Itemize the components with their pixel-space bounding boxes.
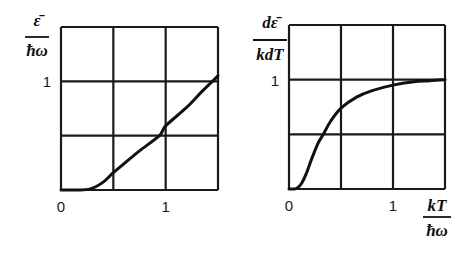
x-tick-label: 1 [161, 198, 169, 215]
data-curve [61, 76, 218, 190]
x-tick-label: 0 [285, 197, 293, 214]
y-label-numerator: ε̄ [34, 11, 46, 30]
y-axis-label: dε̄kdT [253, 13, 287, 64]
y-tick-label: 1 [271, 72, 279, 89]
figure-canvas: 011ε̄ħω 011dε̄kdTkTħω [0, 0, 463, 256]
x-label-numerator: kT [428, 196, 448, 215]
y-label-numerator: dε̄ [262, 13, 282, 32]
y-label-denominator: ħω [26, 41, 48, 60]
mean-energy-plot: 011ε̄ħω [25, 11, 218, 215]
x-axis-label: kTħω [423, 196, 451, 240]
y-tick-label: 1 [43, 73, 51, 90]
x-label-denominator: ħω [426, 221, 448, 240]
x-tick-label: 1 [389, 197, 397, 214]
grid [289, 25, 445, 189]
heat-capacity-plot: 011dε̄kdTkTħω [253, 13, 451, 240]
y-label-denominator: kdT [256, 45, 284, 64]
grid [61, 27, 218, 190]
x-tick-label: 0 [57, 198, 65, 215]
y-axis-label: ε̄ħω [25, 11, 49, 60]
